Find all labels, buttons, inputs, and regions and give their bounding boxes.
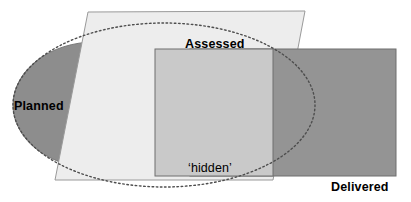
hidden-rectangle bbox=[155, 49, 273, 176]
label-hidden: ‘hidden’ bbox=[188, 161, 232, 175]
label-delivered: Delivered bbox=[331, 180, 389, 194]
label-assessed: Assessed bbox=[185, 37, 245, 51]
shape-hidden[interactable] bbox=[155, 49, 273, 176]
diagram-canvas: Planned Assessed ‘hidden’ Delivered bbox=[0, 0, 411, 202]
venn-overlap-diagram: Planned Assessed ‘hidden’ Delivered bbox=[0, 0, 411, 202]
label-planned: Planned bbox=[14, 99, 64, 113]
